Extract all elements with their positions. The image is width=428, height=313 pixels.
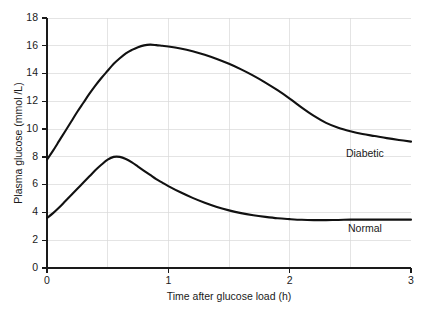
x-tick-label: 3 (408, 274, 414, 286)
y-tick-label: 14 (26, 66, 38, 78)
y-tick-label: 6 (32, 177, 38, 189)
y-tick-label: 16 (26, 39, 38, 51)
y-tick-label: 0 (32, 261, 38, 273)
series-labels: DiabeticNormal (346, 147, 384, 234)
chart-canvas: 0246810121416180123 DiabeticNormal Time … (0, 0, 428, 313)
y-tick-label: 8 (32, 150, 38, 162)
glucose-tolerance-chart: 0246810121416180123 DiabeticNormal Time … (0, 0, 428, 313)
y-tick-label: 12 (26, 94, 38, 106)
x-tick-label: 0 (44, 274, 50, 286)
series-label-normal: Normal (348, 222, 382, 234)
y-tick-label: 4 (32, 205, 38, 217)
x-tick-label: 1 (165, 274, 171, 286)
tick-marks (42, 18, 411, 273)
y-axis-title: Plasma glucose (mmol /L) (12, 82, 24, 203)
series-label-diabetic: Diabetic (346, 147, 384, 159)
x-tick-label: 2 (287, 274, 293, 286)
y-tick-label: 10 (26, 122, 38, 134)
x-axis-title: Time after glucose load (h) (167, 290, 292, 302)
y-tick-label: 2 (32, 233, 38, 245)
y-tick-label: 18 (26, 11, 38, 23)
